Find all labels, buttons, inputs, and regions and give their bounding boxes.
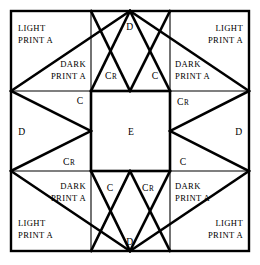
piece-c-bottom-left-label: C: [107, 182, 114, 193]
piece-d-left-label: D: [18, 126, 25, 137]
piece-d-right-label: D: [235, 126, 242, 137]
dark-print-a-top-left-line2: PRINT A: [51, 71, 86, 81]
piece-c-top-right-label: C: [152, 70, 159, 81]
light-print-a-bottom-right-line2: PRINT A: [208, 230, 243, 240]
quilt-block-svg: LIGHT PRINT A LIGHT PRINT A LIGHT PRINT …: [0, 0, 260, 265]
piece-d-top-label: D: [126, 21, 133, 32]
piece-cr-bottom-left-r: R: [70, 159, 75, 167]
dark-print-a-bottom-left-line1: DARK: [60, 181, 86, 191]
quilt-block-diagram: LIGHT PRINT A LIGHT PRINT A LIGHT PRINT …: [0, 0, 260, 265]
piece-cr-top-right-c: C: [177, 96, 184, 107]
piece-cr-top-left-r: R: [112, 73, 117, 81]
piece-cr-top-right-r: R: [184, 99, 189, 107]
piece-d-bottom-label: D: [126, 236, 133, 247]
dark-print-a-bottom-left-line2: PRINT A: [51, 193, 86, 203]
dark-print-a-top-right-line1: DARK: [175, 59, 201, 69]
light-print-a-bottom-left-line2: PRINT A: [18, 230, 53, 240]
light-print-a-top-right-line1: LIGHT: [215, 23, 243, 33]
dark-print-a-top-right-line2: PRINT A: [175, 71, 210, 81]
piece-e-center-label: E: [128, 126, 134, 137]
piece-cr-bottom-right-r: R: [149, 185, 154, 193]
light-print-a-top-right-line2: PRINT A: [208, 35, 243, 45]
dark-print-a-top-left-line1: DARK: [60, 59, 86, 69]
piece-cr-top-left-c: C: [105, 70, 112, 81]
light-print-a-bottom-left-line1: LIGHT: [18, 218, 46, 228]
piece-c-bottom-right-label: C: [180, 156, 187, 167]
dark-print-a-bottom-right-line2: PRINT A: [175, 193, 210, 203]
light-print-a-top-left-line1: LIGHT: [18, 23, 46, 33]
dark-print-a-bottom-right-line1: DARK: [175, 181, 201, 191]
light-print-a-top-left-line2: PRINT A: [18, 35, 53, 45]
light-print-a-bottom-right-line1: LIGHT: [215, 218, 243, 228]
piece-cr-bottom-right-c: C: [142, 182, 149, 193]
piece-c-top-left-label: C: [77, 95, 84, 106]
piece-cr-bottom-left-c: C: [63, 156, 70, 167]
